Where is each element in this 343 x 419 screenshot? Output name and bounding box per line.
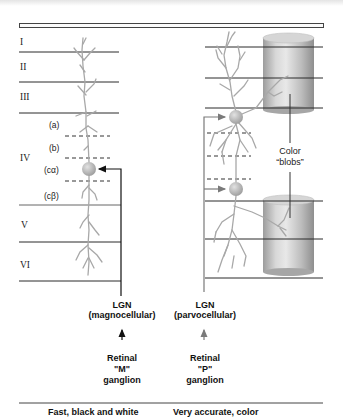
retinal-p-ganglion-label: Retinal "P" ganglion xyxy=(186,353,224,386)
sublayer-label-b: (b) xyxy=(49,143,59,153)
layer-label-V: V xyxy=(21,220,28,230)
sublayer-label-c-beta: (cβ) xyxy=(44,191,59,201)
color-blob-cylinder-lower xyxy=(263,195,314,276)
pia-surface-bar xyxy=(20,24,324,28)
color-blobs-line1: Color xyxy=(276,146,304,157)
retina-m-line1: Retinal xyxy=(103,353,141,364)
layer-label-III: III xyxy=(20,92,30,102)
lgn-parvo-title: LGN xyxy=(174,300,236,310)
lgn-parvo-subtitle: (parvocellular) xyxy=(174,310,236,320)
retina-p-line1: Retinal xyxy=(186,353,224,364)
sublayer-label-c-alpha: (cα) xyxy=(44,165,59,175)
retina-p-line2: "P" xyxy=(186,364,224,375)
parvo-cell-body-upper xyxy=(229,110,243,124)
magno-caption: Fast, black and white xyxy=(48,407,139,417)
lgn-magno-title: LGN xyxy=(88,300,155,310)
visual-cortex-diagram xyxy=(0,0,343,419)
layer-label-IV: IV xyxy=(20,153,30,163)
layer-label-II: II xyxy=(20,62,26,72)
parvo-caption: Very accurate, color xyxy=(173,407,259,417)
parvo-cell-body-lower xyxy=(229,182,243,196)
sublayer-label-a: (a) xyxy=(49,120,59,130)
retina-m-line3: ganglion xyxy=(103,375,141,386)
lgn-magno-subtitle: (magnocellular) xyxy=(88,310,155,320)
retina-m-line2: "M" xyxy=(103,364,141,375)
color-blobs-label: Color “blobs” xyxy=(276,146,304,168)
retina-p-line3: ganglion xyxy=(186,375,224,386)
magno-neuron xyxy=(74,38,102,275)
right-sublayer-dashes xyxy=(207,133,251,179)
lgn-parvo-label: LGN (parvocellular) xyxy=(174,300,236,320)
lgn-magno-label: LGN (magnocellular) xyxy=(88,300,155,320)
color-blob-cylinder-upper xyxy=(263,33,314,114)
retinal-m-ganglion-label: Retinal "M" ganglion xyxy=(103,353,141,386)
layer-label-I: I xyxy=(20,37,23,47)
color-blobs-line2: “blobs” xyxy=(276,157,304,168)
layer-label-VI: VI xyxy=(20,260,30,270)
magno-cell-body xyxy=(82,162,96,176)
left-layer-lines xyxy=(19,52,121,281)
